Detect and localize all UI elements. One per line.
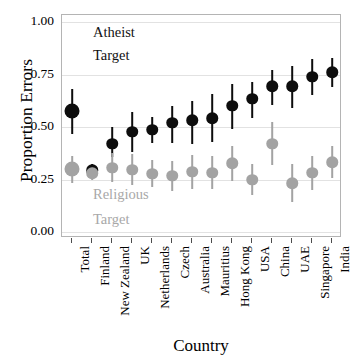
x-tick-mark bbox=[271, 238, 272, 243]
y-tick-label: 0.25 bbox=[8, 172, 54, 186]
y-tick-label: 0.50 bbox=[8, 119, 54, 133]
data-point bbox=[266, 138, 278, 150]
chart-figure: Proportion Errors 0.000.250.500.751.00 C… bbox=[0, 0, 352, 364]
gridline bbox=[62, 127, 340, 128]
data-point bbox=[226, 158, 238, 170]
gridline bbox=[62, 75, 340, 76]
x-tick-label: Finland bbox=[97, 246, 113, 286]
data-point bbox=[266, 81, 278, 93]
data-point bbox=[65, 162, 80, 177]
x-tick-label: New Zealand bbox=[117, 246, 133, 316]
x-tick-mark bbox=[151, 238, 152, 243]
data-point bbox=[146, 168, 158, 180]
data-point bbox=[106, 162, 118, 174]
x-tick-label: Total bbox=[77, 246, 93, 273]
data-point bbox=[186, 166, 198, 178]
x-tick-mark bbox=[71, 238, 72, 243]
y-tick-label: 0.75 bbox=[8, 67, 54, 81]
data-point bbox=[326, 66, 338, 78]
data-point bbox=[306, 167, 318, 179]
data-point bbox=[106, 138, 118, 150]
data-point bbox=[286, 81, 298, 93]
data-point bbox=[246, 174, 258, 186]
data-point bbox=[186, 115, 198, 127]
data-point bbox=[306, 71, 318, 83]
x-tick-mark bbox=[131, 238, 132, 243]
x-tick-label: China bbox=[277, 246, 293, 277]
x-tick-label: Mauritius bbox=[217, 246, 233, 297]
gridline bbox=[62, 232, 340, 233]
data-point bbox=[206, 113, 218, 125]
y-axis-tick-labels: 0.000.250.500.751.00 bbox=[8, 0, 54, 364]
x-tick-mark bbox=[231, 238, 232, 243]
x-tick-label: UK bbox=[137, 246, 153, 265]
y-tick-label: 0.00 bbox=[8, 224, 54, 238]
x-tick-mark bbox=[111, 238, 112, 243]
x-tick-label: Hong Kong bbox=[237, 246, 253, 307]
data-point bbox=[166, 117, 178, 129]
x-tick-label: USA bbox=[257, 246, 273, 272]
x-tick-label: Australia bbox=[197, 246, 213, 294]
x-tick-label: Singapore bbox=[317, 246, 333, 299]
x-axis-title: Country bbox=[60, 336, 342, 356]
x-tick-mark bbox=[331, 238, 332, 243]
plot-annotation: Atheist bbox=[93, 24, 135, 41]
x-tick-label: UAE bbox=[297, 246, 313, 273]
plot-annotation: Target bbox=[93, 47, 130, 64]
data-point bbox=[65, 104, 80, 119]
x-tick-mark bbox=[191, 238, 192, 243]
x-tick-mark bbox=[171, 238, 172, 243]
x-tick-mark bbox=[91, 238, 92, 243]
data-point bbox=[326, 156, 338, 168]
x-tick-label: Czech bbox=[177, 246, 193, 278]
x-tick-mark bbox=[211, 238, 212, 243]
x-tick-label: India bbox=[337, 246, 352, 273]
data-point bbox=[166, 170, 178, 182]
x-tick-mark bbox=[311, 238, 312, 243]
data-point bbox=[146, 124, 158, 136]
plot-annotation: Target bbox=[93, 211, 130, 228]
data-point bbox=[126, 164, 138, 176]
x-tick-mark bbox=[291, 238, 292, 243]
data-point bbox=[286, 177, 298, 189]
x-tick-label: Netherlands bbox=[157, 246, 173, 309]
data-point bbox=[206, 167, 218, 179]
plot-annotation: Religious bbox=[93, 186, 149, 203]
data-point bbox=[126, 126, 138, 138]
data-point bbox=[226, 100, 238, 112]
gridline bbox=[62, 22, 340, 23]
data-point bbox=[86, 168, 98, 180]
gridline bbox=[62, 180, 340, 181]
data-point bbox=[246, 93, 258, 105]
y-tick-label: 1.00 bbox=[8, 14, 54, 28]
x-tick-mark bbox=[251, 238, 252, 243]
